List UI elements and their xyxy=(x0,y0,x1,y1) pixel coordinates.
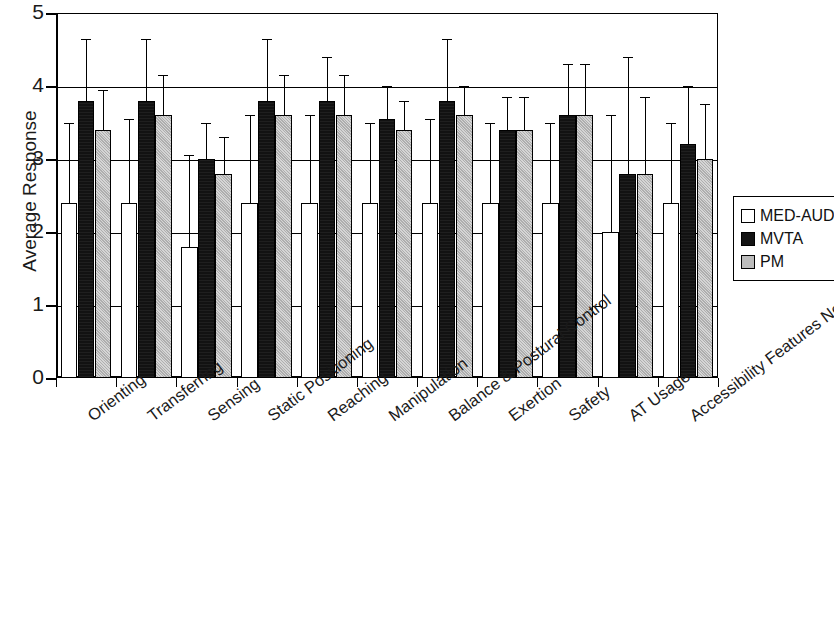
error-bar-line xyxy=(284,75,285,115)
bar-pm xyxy=(155,115,172,378)
error-bar-cap xyxy=(184,155,194,156)
bar-pm xyxy=(456,115,473,378)
error-bar-line xyxy=(568,64,569,115)
error-bar-cap xyxy=(158,75,168,76)
error-bar-cap xyxy=(339,75,349,76)
bar-med-audit xyxy=(422,203,439,378)
error-bar-line xyxy=(688,86,689,144)
bar-med-audit xyxy=(663,203,680,378)
x-axis-label-safety: Safety xyxy=(565,382,614,425)
error-bar-line xyxy=(507,97,508,130)
bar-mvta xyxy=(619,174,636,378)
legend-item-label: MVTA xyxy=(760,230,803,248)
bar-group xyxy=(56,13,116,378)
bar-mvta xyxy=(198,159,215,378)
error-bar-line xyxy=(163,75,164,115)
bar-pm xyxy=(516,130,533,378)
error-bar-cap xyxy=(64,123,74,124)
bar-med-audit xyxy=(181,247,198,378)
error-bar-cap xyxy=(606,115,616,116)
error-bar-line xyxy=(224,137,225,174)
error-bar-line xyxy=(585,64,586,115)
error-bar-cap xyxy=(683,86,693,87)
error-bar-line xyxy=(430,119,431,203)
error-bar-line xyxy=(705,104,706,159)
error-bar-line xyxy=(550,123,551,203)
bar-mvta xyxy=(138,101,155,378)
error-bar-line xyxy=(524,97,525,130)
y-axis-tick-label: 0 xyxy=(4,365,44,389)
bar-group xyxy=(477,13,537,378)
error-bar-cap xyxy=(279,75,289,76)
error-bar-line xyxy=(645,97,646,174)
legend-swatch-icon xyxy=(741,209,755,223)
bar-pm xyxy=(215,174,232,378)
legend-item: MED-AUDIT xyxy=(741,204,834,227)
error-bar-line xyxy=(327,57,328,101)
error-bar-cap xyxy=(219,137,229,138)
bar-group xyxy=(357,13,417,378)
error-bar-line xyxy=(404,101,405,130)
error-bar-line xyxy=(671,123,672,203)
y-axis-tick-label: 1 xyxy=(4,292,44,316)
error-bar-line xyxy=(447,39,448,101)
legend-swatch-icon xyxy=(741,232,755,246)
bar-mvta xyxy=(439,101,456,378)
bar-pm xyxy=(336,115,353,378)
error-bar-cap xyxy=(425,119,435,120)
bar-pm xyxy=(396,130,413,378)
error-bar-line xyxy=(69,123,70,203)
bar-group xyxy=(237,13,297,378)
error-bar-cap xyxy=(382,86,392,87)
error-bar-cap xyxy=(666,123,676,124)
error-bar-cap xyxy=(322,57,332,58)
bar-med-audit xyxy=(121,203,138,378)
bar-group xyxy=(658,13,718,378)
error-bar-line xyxy=(86,39,87,101)
error-bar-line xyxy=(344,75,345,115)
error-bar-cap xyxy=(459,86,469,87)
error-bar-cap xyxy=(305,115,315,116)
error-bar-line xyxy=(206,123,207,160)
bar-pm xyxy=(95,130,112,378)
y-axis-tick-label: 3 xyxy=(4,146,44,170)
error-bar-line xyxy=(310,115,311,203)
legend-item: PM xyxy=(741,250,834,273)
error-bar-cap xyxy=(545,123,555,124)
bar-mvta xyxy=(78,101,95,378)
bar-med-audit xyxy=(301,203,318,378)
bar-group xyxy=(598,13,658,378)
error-bar-line xyxy=(464,86,465,115)
error-bar-cap xyxy=(640,97,650,98)
bar-pm xyxy=(697,159,714,378)
error-bar-cap xyxy=(262,39,272,40)
error-bar-line xyxy=(490,123,491,203)
error-bar-cap xyxy=(700,104,710,105)
error-bar-line xyxy=(103,90,104,130)
bar-group xyxy=(116,13,176,378)
bar-mvta xyxy=(499,130,516,378)
error-bar-line xyxy=(267,39,268,101)
bar-group xyxy=(297,13,357,378)
error-bar-cap xyxy=(365,123,375,124)
error-bar-line xyxy=(146,39,147,101)
bar-med-audit xyxy=(482,203,499,378)
error-bar-line xyxy=(628,57,629,174)
x-axis-tick-mark xyxy=(56,378,57,387)
error-bar-cap xyxy=(98,90,108,91)
bar-med-audit xyxy=(61,203,78,378)
legend-swatch-icon xyxy=(741,255,755,269)
bar-pm xyxy=(576,115,593,378)
y-axis-tick-mark xyxy=(46,378,56,380)
bar-chart: Average Response 012345 OrientingTransfe… xyxy=(0,0,834,624)
error-bar-cap xyxy=(81,39,91,40)
bar-mvta xyxy=(379,119,396,378)
error-bar-line xyxy=(370,123,371,203)
legend-item: MVTA xyxy=(741,227,834,250)
bar-groups xyxy=(56,13,718,378)
bar-pm xyxy=(637,174,654,378)
error-bar-cap xyxy=(124,119,134,120)
bar-group xyxy=(417,13,477,378)
bar-mvta xyxy=(258,101,275,378)
error-bar-line xyxy=(611,115,612,232)
